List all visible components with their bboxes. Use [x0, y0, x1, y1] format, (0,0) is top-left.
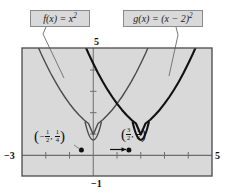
- point-marker-left: [79, 147, 84, 152]
- y-axis-min-label: −1: [91, 178, 102, 189]
- graph-figure: [0, 0, 234, 196]
- function-label-f-text: f(x) = x2: [43, 12, 77, 24]
- point-marker-right: [126, 147, 131, 152]
- point-label-right: (32, 14): [121, 126, 146, 143]
- x-axis-max-label: 5: [215, 150, 220, 161]
- x-axis-min-label: −3: [4, 150, 15, 161]
- point-label-left: (−12, 14): [34, 128, 65, 145]
- function-label-g-text: g(x) = (x − 2)2: [133, 12, 192, 24]
- function-label-g: g(x) = (x − 2)2: [123, 10, 203, 27]
- y-axis-max-label: 5: [94, 36, 99, 47]
- function-label-f: f(x) = x2: [30, 10, 90, 27]
